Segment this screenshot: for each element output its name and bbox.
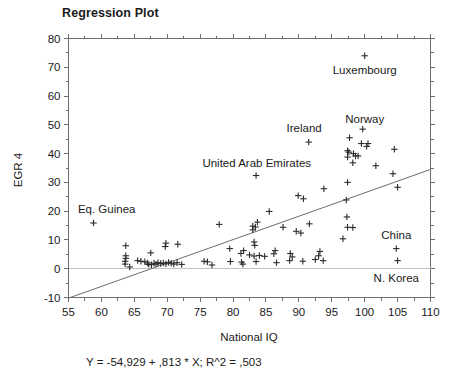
annotation-label: United Arab Emirates <box>202 157 311 169</box>
y-tick-label: 40 <box>48 148 61 160</box>
data-point <box>266 208 272 214</box>
data-point <box>138 258 144 264</box>
data-point <box>393 245 399 251</box>
data-point <box>300 196 306 202</box>
data-point <box>391 146 397 152</box>
x-tick-label: 100 <box>355 306 374 318</box>
x-tick-label: 65 <box>128 306 141 318</box>
data-point <box>358 140 364 146</box>
x-tick-label: 110 <box>421 306 439 318</box>
data-point <box>346 149 352 155</box>
data-point <box>350 160 356 166</box>
annotation-label: N. Korea <box>374 272 420 284</box>
data-point <box>227 245 233 251</box>
data-point <box>204 259 210 265</box>
data-point <box>320 257 326 263</box>
data-point <box>251 253 257 259</box>
x-tick-label: 80 <box>227 306 240 318</box>
data-point <box>344 148 350 154</box>
data-point <box>271 251 277 257</box>
x-tick-label: 90 <box>292 306 305 318</box>
point-annotations: LuxembourgNorwayIrelandUnited Arab Emira… <box>78 64 420 283</box>
y-tick-label: 70 <box>48 61 61 73</box>
data-point <box>251 239 257 245</box>
regression-equation: Y = -54,929 + ,813 * X; R^2 = ,503 <box>86 356 262 368</box>
data-point <box>343 197 349 203</box>
annotation-label: Eq. Guinea <box>78 203 136 215</box>
data-point <box>350 224 356 230</box>
data-point <box>261 253 267 259</box>
y-axis-tick-labels: -1001020304050607080 <box>44 33 61 304</box>
data-point <box>306 139 312 145</box>
data-point <box>227 258 233 264</box>
data-point <box>344 179 350 185</box>
data-point <box>123 243 129 249</box>
data-point <box>312 256 318 262</box>
data-point <box>390 171 396 177</box>
data-point <box>344 154 350 160</box>
x-tick-label: 85 <box>260 306 273 318</box>
data-point <box>127 264 133 270</box>
data-point <box>306 221 312 227</box>
y-tick-label: 10 <box>48 234 61 246</box>
annotation-label: China <box>381 229 412 241</box>
data-point <box>272 247 278 253</box>
annotation-label: Norway <box>345 113 384 125</box>
data-point <box>256 252 262 258</box>
annotation-label: Ireland <box>287 122 322 134</box>
scatter-plot-canvas: 556065707580859095100105110 -10010203040… <box>0 0 452 380</box>
data-point <box>295 192 301 198</box>
y-axis-title: EGR 4 <box>12 152 24 187</box>
data-point <box>216 221 222 227</box>
data-point <box>340 236 346 242</box>
y-tick-label: 20 <box>48 205 61 217</box>
data-point <box>148 250 154 256</box>
x-tick-label: 105 <box>388 306 407 318</box>
y-tick-label: 0 <box>54 263 60 275</box>
data-point <box>90 220 96 226</box>
y-tick-label: 30 <box>48 176 61 188</box>
x-axis-tick-labels: 556065707580859095100105110 <box>62 306 440 318</box>
y-tick-label: 50 <box>48 119 61 131</box>
x-tick-label: 60 <box>95 306 108 318</box>
x-tick-label: 55 <box>62 306 75 318</box>
data-point <box>280 224 286 230</box>
data-point <box>246 252 252 258</box>
data-point <box>253 172 259 178</box>
regression-plot-figure: Regression Plot 556065707580859095100105… <box>0 0 452 380</box>
x-tick-label: 75 <box>194 306 207 318</box>
y-tick-label: 80 <box>48 33 61 45</box>
data-point <box>361 53 367 59</box>
data-point <box>321 186 327 192</box>
data-point <box>273 259 279 265</box>
data-point <box>253 258 259 264</box>
x-tick-label: 70 <box>161 306 174 318</box>
data-point <box>394 257 400 263</box>
y-tick-label: 60 <box>48 90 61 102</box>
data-point <box>300 258 306 264</box>
data-point <box>315 253 321 259</box>
data-point <box>394 184 400 190</box>
x-tick-label: 95 <box>325 306 338 318</box>
data-point <box>344 214 350 220</box>
data-point <box>373 162 379 168</box>
data-point <box>252 242 258 248</box>
data-point <box>365 140 371 146</box>
data-point <box>317 248 323 254</box>
data-point <box>163 240 169 246</box>
y-tick-label: -10 <box>44 292 61 304</box>
data-point <box>209 262 215 268</box>
x-axis-title: National IQ <box>220 331 278 343</box>
data-point <box>162 243 168 249</box>
annotation-label: Luxembourg <box>333 64 397 76</box>
data-point <box>201 258 207 264</box>
data-point <box>134 257 140 263</box>
data-point <box>175 241 181 247</box>
data-point <box>360 126 366 132</box>
data-point <box>122 261 128 267</box>
data-point <box>363 143 369 149</box>
data-point <box>346 135 352 141</box>
